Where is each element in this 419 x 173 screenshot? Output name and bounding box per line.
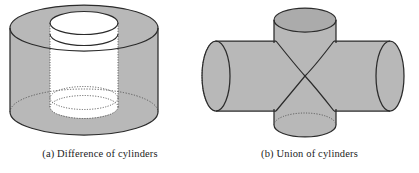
figure-union-of-cylinders: (b) Union of cylinders <box>200 0 419 173</box>
difference-of-cylinders-drawing <box>0 0 200 148</box>
bore-interior-wall <box>50 23 118 118</box>
caption-union-of-cylinders: (b) Union of cylinders <box>200 148 419 159</box>
figure-difference-of-cylinders: (a) Difference of cylinders <box>0 0 200 173</box>
caption-difference-of-cylinders: (a) Difference of cylinders <box>0 148 214 159</box>
figure-panel: (a) Difference of cylinders <box>0 0 419 173</box>
vertical-cylinder-wall <box>274 20 336 125</box>
union-of-cylinders-drawing <box>200 0 419 148</box>
